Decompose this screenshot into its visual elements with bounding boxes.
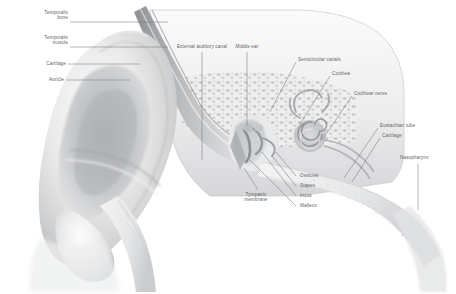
label-middle-ear: Middle ear — [226, 44, 268, 49]
label-temporalis-muscle: Temporalis muscle — [8, 35, 68, 46]
label-semicircular-canals: Semicircular canals — [298, 57, 341, 62]
label-ossicles: Ossicles — [300, 173, 319, 178]
label-malleus: Malleus — [300, 203, 317, 208]
label-auricle: Auricle — [8, 77, 64, 82]
nasopharynx-region — [392, 206, 447, 292]
label-tympanic-membrane: Tympanic membrane — [228, 192, 284, 203]
label-cochlear-nerve: Cochlear nerve — [354, 91, 387, 96]
label-nasopharynx: Nasopharynx — [400, 155, 429, 160]
label-temporalis-bone: Temporalis bone — [8, 10, 68, 21]
ear-anatomy-figure: Temporalis bone Temporalis muscle Cartil… — [0, 0, 456, 294]
label-incus: Incus — [300, 193, 312, 198]
label-eustachian-tube: Eustachian tube — [380, 123, 415, 128]
label-stapes: Stapes — [300, 183, 315, 188]
label-cartilage-left: Cartilage — [8, 61, 66, 66]
label-cartilage-right: Cartilage — [382, 133, 402, 138]
label-cochlea: Cochlea — [332, 71, 350, 76]
